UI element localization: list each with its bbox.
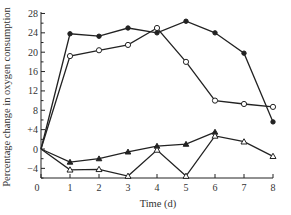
- series-line: [41, 136, 273, 176]
- x-tick-label: 6: [213, 182, 218, 193]
- y-tick-label: 16: [28, 66, 38, 77]
- x-tick-label: 3: [126, 182, 131, 193]
- y-tick-label: +4: [27, 124, 38, 135]
- data-point-marker: [271, 120, 275, 124]
- data-point-marker: [67, 159, 73, 164]
- data-point-marker: [184, 19, 188, 23]
- axes: [41, 12, 273, 178]
- data-point-marker: [212, 98, 217, 103]
- y-tick-label: 12: [28, 85, 38, 96]
- series-line: [41, 21, 273, 149]
- data-point-marker: [97, 34, 101, 38]
- data-point-marker: [126, 26, 130, 30]
- x-tick-label: 1: [68, 182, 73, 193]
- x-tick-label: 5: [184, 182, 189, 193]
- y-axis-label: Percentage change in oxygen consumption: [1, 6, 12, 186]
- data-point-marker: [154, 25, 159, 30]
- series-open-triangle: [41, 133, 276, 178]
- y-tick-label: 24: [28, 27, 38, 38]
- y-tick-label: 20: [28, 47, 38, 58]
- y-axis-ticks: −40+481216202428: [27, 8, 45, 178]
- y-tick-label: −4: [27, 163, 38, 174]
- data-point-marker: [270, 104, 275, 109]
- data-point-marker: [96, 48, 101, 53]
- x-tick-label: 2: [97, 182, 102, 193]
- data-point-marker: [183, 59, 188, 64]
- x-tick-label: 8: [271, 182, 276, 193]
- series-line: [41, 28, 273, 149]
- y-tick-label: 28: [28, 8, 38, 19]
- data-point-marker: [68, 32, 72, 36]
- x-axis-label: Time (d): [140, 198, 177, 210]
- data-series: [41, 19, 276, 178]
- x-tick-label: 7: [242, 182, 247, 193]
- series-line: [41, 132, 215, 162]
- data-point-marker: [125, 149, 131, 154]
- data-point-marker: [242, 51, 246, 55]
- y-tick-label: 0: [33, 144, 38, 155]
- series-filled-circle: [41, 19, 275, 149]
- x-tick-label: 4: [155, 182, 160, 193]
- data-point-marker: [67, 53, 72, 58]
- series-filled-triangle: [41, 129, 218, 164]
- data-point-marker: [183, 141, 189, 146]
- data-point-marker: [155, 31, 159, 35]
- series-open-circle: [41, 25, 276, 149]
- x-tick-label: 0: [35, 182, 40, 193]
- data-point-marker: [213, 31, 217, 35]
- data-point-marker: [96, 156, 102, 161]
- line-chart: −40+481216202428 012345678 Time (d) Perc…: [0, 0, 291, 215]
- y-tick-label: 8: [33, 105, 38, 116]
- data-point-marker: [241, 101, 246, 106]
- x-axis-ticks: 012345678: [35, 174, 276, 193]
- data-point-marker: [125, 42, 130, 47]
